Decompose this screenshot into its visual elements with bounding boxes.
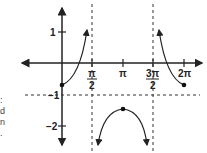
x-tick-3pi-over-2-num: 3π (146, 68, 160, 79)
cutoff-char: : (0, 95, 5, 106)
x-tick-pi-over-2-num: π (88, 68, 96, 79)
x-tick-3pi-over-2-den: 2 (150, 80, 156, 91)
curve-left-branch (62, 30, 87, 85)
cutoff-char: n (0, 117, 5, 128)
y-tick-neg-1: −1 (48, 90, 60, 101)
x-tick-2pi: 2π (178, 68, 192, 79)
x-tick-pi: π (119, 68, 127, 79)
cutoff-text: : d n . (0, 95, 5, 139)
cutoff-char: . (0, 128, 5, 139)
x-tick-pi-over-2-den: 2 (89, 80, 95, 91)
cutoff-char: d (0, 106, 5, 117)
curve-middle-branch (98, 109, 123, 145)
graph: 1 −1 −2 π 2 π 3π 2 2π (0, 0, 207, 153)
y-tick-1: 1 (50, 27, 56, 38)
y-tick-neg-2: −2 (46, 121, 58, 132)
